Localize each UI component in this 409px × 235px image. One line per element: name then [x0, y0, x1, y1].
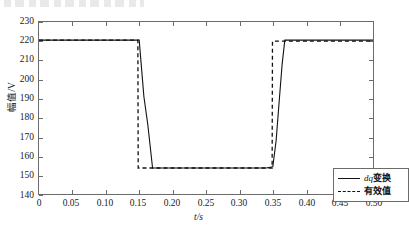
legend-label-dq-suffix: 变换 [373, 173, 391, 183]
x-tick-label: 0.20 [164, 199, 181, 209]
series-plot [39, 22, 373, 194]
y-tick-label: 190 [20, 94, 34, 104]
x-axis-title: t/s [0, 212, 397, 222]
y-tick-label: 150 [20, 171, 34, 181]
y-tick-label: 140 [20, 191, 34, 201]
legend-solid-line-icon [338, 174, 360, 183]
x-tick-label: 0.05 [63, 199, 80, 209]
scan-artifact-smudge [4, 0, 144, 7]
plot-area: dq变换 有效值 [38, 21, 374, 195]
y-axis-title: 幅值/V [7, 67, 17, 127]
x-tick-label: 0.15 [130, 199, 147, 209]
y-tick-label: 200 [20, 75, 34, 85]
x-tick-label: 0.35 [265, 199, 282, 209]
series-dq-transform-line [39, 40, 373, 168]
x-tick-label: 0 [37, 199, 42, 209]
legend-dashed-line-icon [338, 187, 360, 196]
y-tick-label: 220 [20, 36, 34, 46]
y-tick-label: 160 [20, 152, 34, 162]
legend-item-rms[interactable]: 有效值 [338, 185, 404, 198]
series-rms-line [39, 40, 373, 168]
legend-label-dq-transform: dq变换 [364, 174, 391, 183]
y-tick-label: 170 [20, 133, 34, 143]
x-tick-label: 0.40 [299, 199, 316, 209]
x-axis-title-text: t/s [194, 212, 203, 222]
legend-box[interactable]: dq变换 有效值 [333, 168, 409, 202]
legend-item-dq-transform[interactable]: dq变换 [338, 172, 404, 185]
x-tick-label: 0.25 [198, 199, 215, 209]
x-tick-label: 0.10 [97, 199, 114, 209]
legend-label-rms: 有效值 [364, 187, 391, 196]
y-axis-tick [39, 195, 43, 196]
x-tick-label: 0.30 [231, 199, 248, 209]
y-tick-label: 210 [20, 55, 34, 65]
legend-label-dq-prefix: dq [364, 173, 373, 183]
y-tick-label: 180 [20, 113, 34, 123]
y-tick-label: 230 [20, 17, 34, 27]
